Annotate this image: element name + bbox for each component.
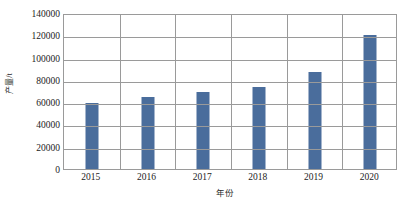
x-axis-title: 年份 xyxy=(0,186,407,198)
x-axis-tick-label: 2017 xyxy=(193,172,212,182)
vertical-gridline xyxy=(175,15,176,169)
x-axis-tick-label: 2015 xyxy=(81,172,100,182)
y-axis-tick-label: 20000 xyxy=(18,143,60,153)
y-axis-tick-labels: 140000120000100000800006000040000200000 xyxy=(18,14,60,170)
vertical-gridline xyxy=(287,15,288,169)
bar xyxy=(85,103,98,169)
x-axis-title-text: 年份 xyxy=(216,186,234,198)
x-axis-tick-label: 2018 xyxy=(248,172,267,182)
horizontal-gridline xyxy=(64,149,396,150)
x-axis-tick-label: 2016 xyxy=(137,172,156,182)
horizontal-gridline xyxy=(64,60,396,61)
bar xyxy=(308,72,321,169)
horizontal-gridline xyxy=(64,126,396,127)
horizontal-gridline xyxy=(64,104,396,105)
horizontal-gridline xyxy=(64,37,396,38)
y-axis-tick-label: 100000 xyxy=(18,54,60,64)
vertical-gridline xyxy=(231,15,232,169)
y-axis-tick-label: 120000 xyxy=(18,31,60,41)
bar xyxy=(141,97,154,169)
bar xyxy=(252,87,265,169)
x-axis-tick-labels: 201520162017201820192020 xyxy=(63,172,397,186)
y-axis-tick-label: 80000 xyxy=(18,76,60,86)
horizontal-gridline xyxy=(64,82,396,83)
x-axis-tick-label: 2019 xyxy=(304,172,323,182)
y-axis-title: 产量/t xyxy=(3,62,14,106)
y-axis-tick-label: 140000 xyxy=(18,9,60,19)
vertical-gridline xyxy=(342,15,343,169)
y-axis-tick-label: 40000 xyxy=(18,120,60,130)
x-axis-tick-label: 2020 xyxy=(360,172,379,182)
bar-chart: 产量/t 14000012000010000080000600004000020… xyxy=(0,0,407,202)
vertical-gridline xyxy=(120,15,121,169)
y-axis-tick-label: 60000 xyxy=(18,98,60,108)
y-axis-tick-label: 0 xyxy=(18,165,60,175)
plot-area xyxy=(63,14,397,170)
